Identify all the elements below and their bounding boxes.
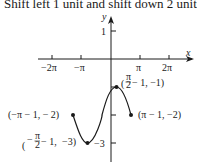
x-axis-label: x (185, 47, 191, 58)
svg-text:−: − (27, 134, 33, 145)
label-point-maximum: ( π 2 − 1, −1) (121, 71, 164, 90)
point-minimum (86, 141, 90, 145)
y-axis-label: y (101, 11, 107, 22)
point-maximum (115, 85, 119, 89)
svg-text:(: ( (22, 140, 26, 152)
tick-label-2pi: 2π (162, 62, 172, 73)
tick-label-neg-3: −3 (94, 138, 105, 149)
point-end (129, 113, 133, 117)
sine-curve (73, 87, 131, 143)
label-point-start: (−π − 1, − 2) (8, 109, 59, 121)
point-start (71, 113, 75, 117)
svg-text:2: 2 (35, 139, 40, 150)
tick-label-neg-pi: −π (74, 62, 85, 73)
label-point-minimum: ( − π 2 − 1, −3) (22, 130, 76, 152)
svg-text:2: 2 (126, 79, 131, 90)
tick-label-pi: π (136, 62, 141, 73)
svg-text:(: ( (121, 78, 125, 90)
svg-text:− 1, −1): − 1, −1) (132, 77, 164, 89)
tick-label-1: 1 (101, 26, 106, 37)
svg-text:−3): −3) (62, 136, 76, 148)
graph: y x 1 −2π −π π 2π −3 (−π − 1, − 2) (π − … (0, 0, 197, 164)
svg-text:− 1,: − 1, (41, 136, 57, 147)
tick-label-neg-2pi: −2π (41, 62, 57, 73)
label-point-end: (π − 1, −2) (138, 109, 181, 121)
